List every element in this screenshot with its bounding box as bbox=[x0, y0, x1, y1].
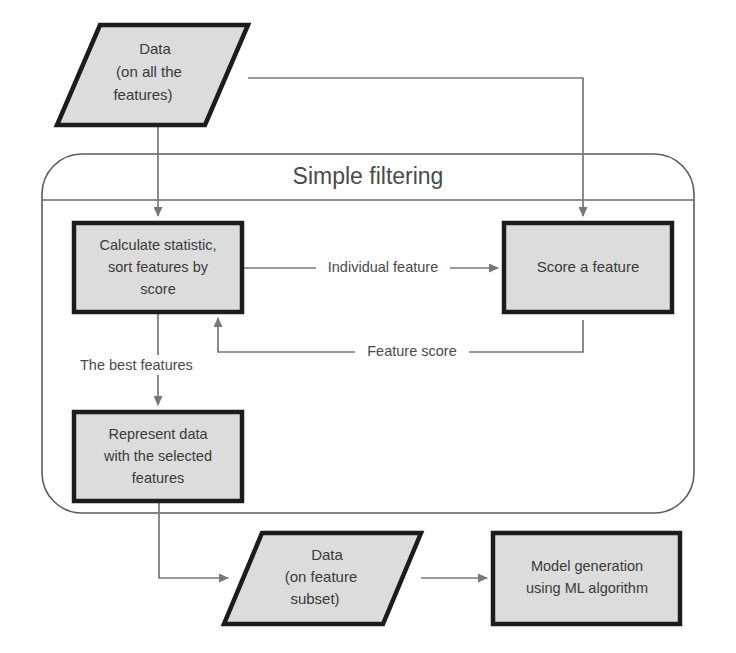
node-calculate-statistic-line-2: sort features by bbox=[108, 259, 209, 275]
node-model-generation-line-2: using ML algorithm bbox=[526, 580, 648, 596]
connector-represent-to-subset bbox=[159, 500, 228, 578]
flowchart-diagram: Simple filtering Individual feature bbox=[0, 0, 736, 653]
node-data-all-features-line-2: (on all the bbox=[116, 63, 182, 80]
node-data-feature-subset-line-1: Data bbox=[311, 546, 343, 563]
node-calculate-statistic-line-3: score bbox=[140, 281, 175, 297]
node-represent-data-line-1: Represent data bbox=[108, 426, 208, 442]
node-data-all-features-line-1: Data bbox=[139, 40, 171, 57]
node-score-a-feature-label: Score a feature bbox=[537, 258, 640, 275]
node-model-generation-line-1: Model generation bbox=[531, 558, 643, 574]
edge-label-individual-feature: Individual feature bbox=[328, 259, 438, 275]
node-data-all-features-line-3: features) bbox=[113, 86, 172, 103]
flowchart-canvas: Simple filtering Individual feature bbox=[0, 0, 736, 653]
edge-label-feature-score: Feature score bbox=[367, 343, 456, 359]
node-score-a-feature[interactable]: Score a feature bbox=[504, 223, 672, 312]
node-data-feature-subset[interactable]: Data (on feature subset) bbox=[224, 533, 421, 624]
rect-model-generation bbox=[493, 533, 680, 624]
node-represent-data-line-3: features bbox=[132, 470, 184, 486]
node-represent-data-line-2: with the selected bbox=[103, 448, 212, 464]
node-data-feature-subset-line-3: subset) bbox=[290, 590, 339, 607]
connector-data-to-score bbox=[248, 78, 583, 216]
node-represent-data[interactable]: Represent data with the selected feature… bbox=[74, 412, 242, 501]
node-calculate-statistic-line-1: Calculate statistic, bbox=[100, 237, 217, 253]
edge-label-best-features: The best features bbox=[80, 357, 193, 373]
node-data-feature-subset-line-2: (on feature bbox=[285, 568, 358, 585]
group-title-label: Simple filtering bbox=[293, 163, 444, 189]
node-model-generation[interactable]: Model generation using ML algorithm bbox=[493, 533, 680, 624]
node-calculate-statistic[interactable]: Calculate statistic, sort features by sc… bbox=[74, 223, 242, 312]
node-data-all-features[interactable]: Data (on all the features) bbox=[57, 25, 248, 125]
